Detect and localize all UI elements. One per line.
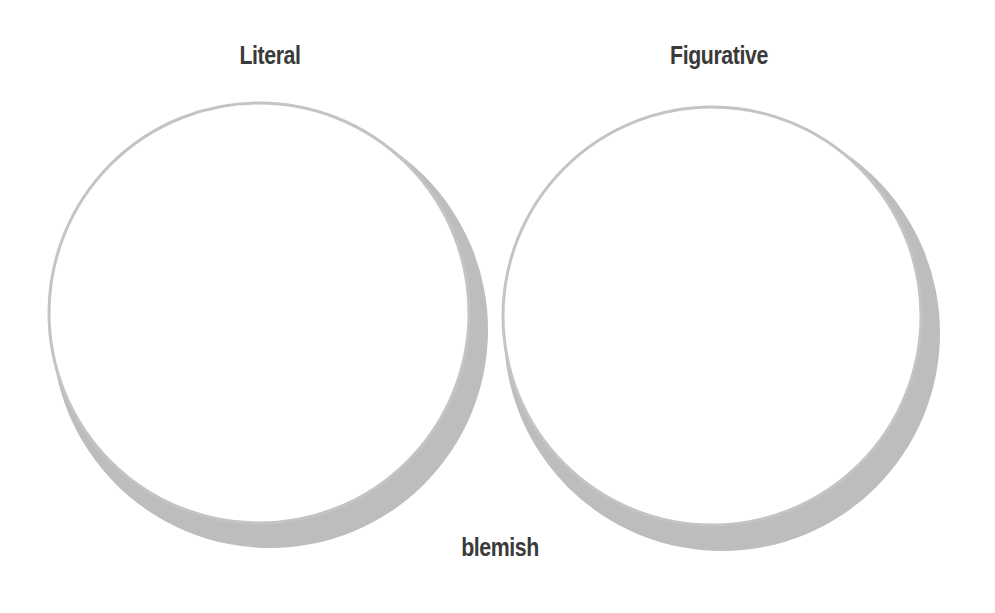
term-label: blemish [443, 532, 558, 563]
figurative-circle [503, 107, 940, 551]
figurative-label: Figurative [662, 40, 777, 71]
literal-circle-disc [49, 103, 469, 523]
literal-circle [49, 103, 488, 548]
literal-label: Literal [221, 40, 319, 71]
figurative-circle-disc [503, 107, 921, 525]
diagram-canvas [0, 0, 995, 613]
